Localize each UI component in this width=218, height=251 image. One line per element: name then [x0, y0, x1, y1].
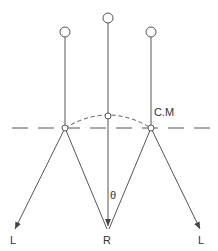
right-bottom-label: L: [198, 235, 204, 246]
center-top-bob: [103, 13, 113, 23]
right-top-bob: [146, 27, 156, 37]
left-bottom-label: L: [10, 235, 16, 246]
cm-node: [105, 113, 111, 119]
right-pivot-node: [148, 125, 154, 131]
center-bottom-label: R: [103, 235, 111, 246]
arrow-left-R: [65, 128, 107, 229]
theta-label: θ: [110, 190, 116, 201]
arrow-right-R: [109, 128, 151, 229]
cm-label: C.M: [154, 107, 174, 118]
left-pivot-node: [62, 125, 68, 131]
arrow-right-L: [151, 128, 200, 229]
pendulum-diagram: [0, 0, 218, 251]
arrow-left-L: [15, 128, 65, 229]
left-top-bob: [60, 27, 70, 37]
